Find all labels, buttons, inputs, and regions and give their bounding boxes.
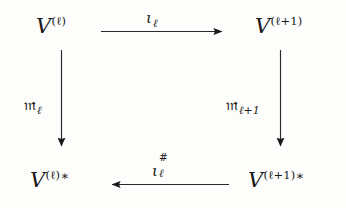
node-v-ell-superscript: (ℓ): [51, 14, 66, 28]
node-v-ell-plus-1-base: V: [255, 14, 270, 38]
arrow-top-subscript: ℓ: [153, 17, 158, 30]
arrow-right-subscript: ℓ+1: [239, 104, 260, 117]
node-v-ell-dual-superscript: (ℓ): [45, 168, 60, 182]
node-v-ell-dual: V(ℓ)∗: [30, 170, 69, 191]
arrow-left-subscript: ℓ: [37, 104, 42, 117]
arrow-left-m-ell-label: 𝔪ℓ: [24, 97, 42, 113]
arrow-right-m-ell-plus-1-label: 𝔪ℓ+1: [226, 97, 260, 113]
arrow-top-symbol: ι: [146, 9, 152, 27]
node-v-ell-plus-1-superscript: (ℓ+1): [270, 14, 302, 28]
node-v-ell-plus-1-dual-superscript: (ℓ+1): [263, 168, 295, 182]
node-v-ell-plus-1-dual-base: V: [248, 168, 263, 192]
node-v-ell-plus-1-dual-star: ∗: [296, 168, 305, 183]
node-v-ell-plus-1: V(ℓ+1): [255, 16, 303, 37]
node-v-ell-dual-star: ∗: [60, 168, 69, 183]
node-v-ell: V(ℓ): [36, 16, 66, 37]
node-v-ell-plus-1-dual: V(ℓ+1)∗: [248, 170, 304, 191]
node-v-ell-base: V: [36, 14, 51, 38]
arrow-left-symbol: 𝔪: [24, 95, 36, 114]
arrow-bottom-superscript: #: [159, 152, 168, 163]
arrow-right-symbol: 𝔪: [226, 95, 238, 114]
arrow-bottom-iota-sharp-ell-label: ιℓ#ℓ: [152, 163, 163, 179]
arrow-top-iota-ell-label: ιℓ: [146, 10, 157, 26]
commutative-diagram: V(ℓ) V(ℓ+1) V(ℓ)∗ V(ℓ+1)∗ ιℓ 𝔪ℓ 𝔪ℓ+1 ιℓ#…: [0, 0, 346, 208]
node-v-ell-dual-base: V: [30, 168, 45, 192]
arrow-bottom-subscript: ℓ: [159, 168, 164, 179]
arrow-bottom-script-stack: ℓ#ℓ: [158, 163, 163, 179]
